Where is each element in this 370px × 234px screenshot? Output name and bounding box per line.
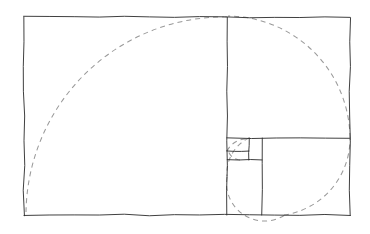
- square-4-horizontal-divider: [227, 160, 262, 161]
- fibonacci-diagram: [0, 0, 370, 234]
- diagram-background: [0, 0, 370, 234]
- fibonacci-svg-canvas: [0, 0, 370, 234]
